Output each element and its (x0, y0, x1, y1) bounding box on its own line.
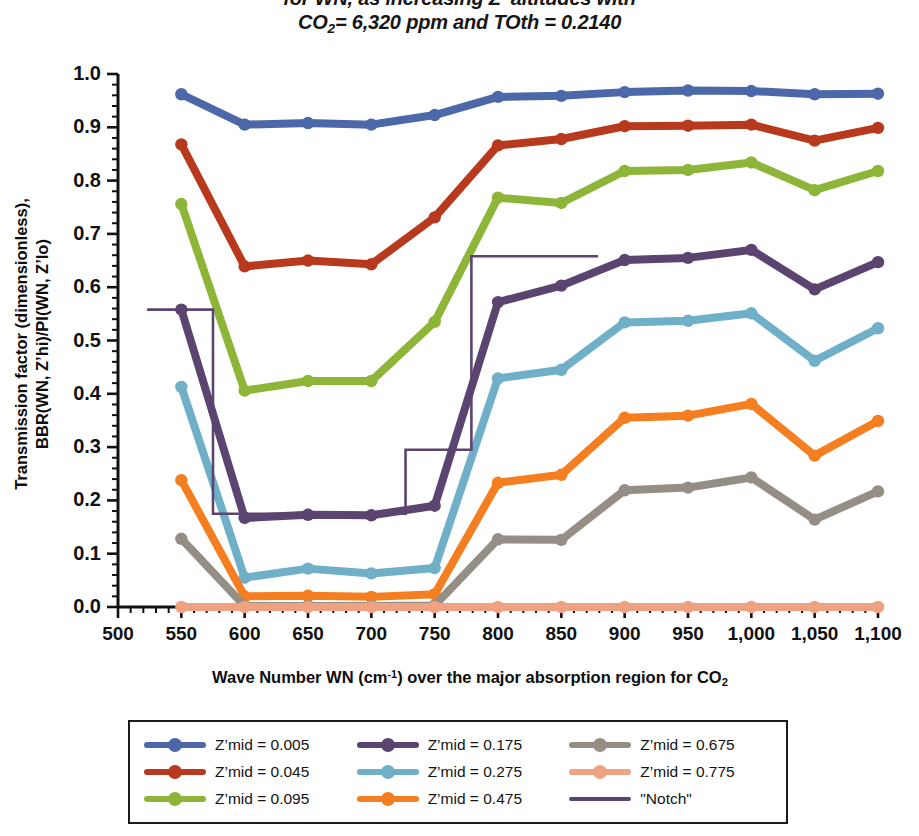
data-point-marker (492, 91, 504, 103)
y-tick-label: 0.5 (73, 329, 101, 351)
legend-swatch-marker (381, 765, 395, 779)
data-point-marker (872, 601, 884, 613)
legend-label: Z’mid = 0.005 (215, 736, 309, 754)
legend-item[interactable]: Z’mid = 0.675 (569, 731, 776, 758)
series-z-mid-0-095 (175, 156, 884, 397)
data-point-marker (555, 197, 567, 209)
series-line (181, 91, 878, 125)
y-tick-label: 0.6 (73, 275, 101, 297)
y-tick-label: 0.0 (73, 595, 101, 617)
data-point-marker (745, 244, 757, 256)
data-point-marker (365, 118, 377, 130)
legend-item[interactable]: Z’mid = 0.045 (144, 758, 351, 785)
data-point-marker (745, 118, 757, 130)
data-point-marker (618, 165, 630, 177)
data-point-marker (175, 474, 187, 486)
legend-item[interactable]: Z’mid = 0.775 (569, 758, 776, 785)
data-point-marker (745, 85, 757, 97)
legend-swatch-marker (168, 738, 182, 752)
data-point-marker (682, 409, 694, 421)
data-point-marker (618, 316, 630, 328)
x-tick-label: 1,000 (728, 623, 776, 644)
plot-area: 0.00.10.20.30.40.50.60.70.80.91.05005506… (0, 0, 919, 700)
data-point-marker (365, 509, 377, 521)
data-point-marker (618, 120, 630, 132)
series-z-mid-0-005 (175, 84, 884, 131)
y-tick-label: 1.0 (73, 62, 101, 84)
data-point-marker (682, 120, 694, 132)
legend-swatch (569, 738, 631, 752)
legend-label: Z’mid = 0.775 (640, 763, 734, 781)
data-point-marker (745, 156, 757, 168)
data-point-marker (302, 601, 314, 613)
data-point-marker (745, 307, 757, 319)
data-point-marker (808, 601, 820, 613)
legend-swatch (357, 765, 419, 779)
legend-swatch-marker (168, 765, 182, 779)
data-point-marker (808, 283, 820, 295)
data-point-marker (238, 118, 250, 130)
x-tick-label: 650 (292, 623, 324, 644)
legend-item[interactable]: "Notch" (569, 785, 776, 812)
data-point-marker (175, 138, 187, 150)
data-point-marker (365, 601, 377, 613)
data-point-marker (492, 296, 504, 308)
data-point-marker (492, 533, 504, 545)
data-point-marker (682, 481, 694, 493)
series-z-mid-0-045 (175, 118, 884, 272)
x-axis-title-subscript: 2 (722, 676, 728, 688)
data-point-marker (302, 562, 314, 574)
data-point-marker (428, 109, 440, 121)
data-point-marker (808, 513, 820, 525)
data-point-marker (555, 601, 567, 613)
legend-swatch-line (569, 797, 631, 801)
x-axis-title: Wave Number WN (cm-1) over the major abs… (60, 668, 880, 688)
data-point-marker (365, 567, 377, 579)
y-tick-label: 0.2 (73, 488, 101, 510)
x-tick-label: 750 (419, 623, 451, 644)
legend-item[interactable]: Z’mid = 0.475 (357, 785, 564, 812)
data-point-marker (302, 375, 314, 387)
data-point-marker (745, 601, 757, 613)
data-point-marker (175, 88, 187, 100)
data-point-marker (428, 601, 440, 613)
legend-item[interactable]: Z’mid = 0.095 (144, 785, 351, 812)
x-tick-label: 850 (545, 623, 577, 644)
series-line (181, 477, 878, 605)
data-point-marker (428, 211, 440, 223)
legend-item[interactable]: Z’mid = 0.275 (357, 758, 564, 785)
data-point-marker (365, 258, 377, 270)
data-point-marker (872, 88, 884, 100)
data-point-marker (618, 601, 630, 613)
data-point-marker (745, 398, 757, 410)
legend-label: Z’mid = 0.675 (640, 736, 734, 754)
y-tick-label: 0.4 (73, 382, 102, 404)
x-tick-label: 800 (482, 623, 514, 644)
data-point-marker (175, 381, 187, 393)
chart-legend: Z’mid = 0.005Z’mid = 0.175Z’mid = 0.675Z… (128, 720, 788, 824)
data-point-marker (808, 449, 820, 461)
data-point-marker (682, 164, 694, 176)
legend-item[interactable]: Z’mid = 0.005 (144, 731, 351, 758)
legend-item[interactable]: Z’mid = 0.175 (357, 731, 564, 758)
legend-label: Z’mid = 0.175 (428, 736, 522, 754)
series-z-mid-0-675 (175, 471, 884, 612)
data-point-marker (808, 88, 820, 100)
x-axis-title-pre: Wave Number WN (cm (212, 668, 387, 686)
data-point-marker (872, 322, 884, 334)
data-point-marker (808, 355, 820, 367)
legend-label: Z’mid = 0.045 (215, 763, 309, 781)
data-point-marker (682, 601, 694, 613)
x-tick-label: 1,050 (791, 623, 839, 644)
y-tick-label: 0.1 (73, 542, 101, 564)
data-point-marker (175, 198, 187, 210)
legend-swatch (144, 792, 206, 806)
data-point-marker (492, 477, 504, 489)
data-point-marker (555, 90, 567, 102)
legend-swatch (144, 738, 206, 752)
legend-swatch-marker (168, 792, 182, 806)
legend-swatch (357, 792, 419, 806)
data-point-marker (808, 134, 820, 146)
data-point-marker (428, 562, 440, 574)
data-point-marker (365, 375, 377, 387)
